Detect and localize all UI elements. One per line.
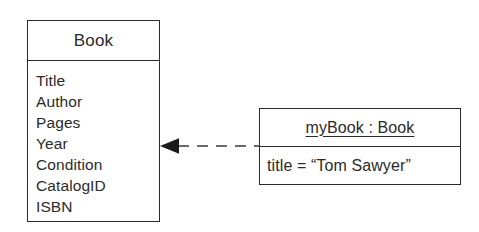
object-name-label: myBook : Book [306,120,415,136]
class-attribute-item: Pages [36,112,159,133]
class-attribute-item: CatalogID [36,175,159,196]
connector-arrowhead-icon [160,138,179,153]
class-attribute-item: Author [36,91,159,112]
object-slots-compartment: title = “Tom Sawyer” [260,147,460,184]
diagram-canvas: Book Title Author Pages Year Condition C… [0,0,479,232]
class-box-book[interactable]: Book Title Author Pages Year Condition C… [27,20,160,222]
object-name-compartment: myBook : Book [260,109,460,147]
object-box-mybook[interactable]: myBook : Book title = “Tom Sawyer” [259,108,461,185]
class-name-compartment: Book [28,21,159,61]
class-attribute-item: Title [36,70,159,91]
class-name-label: Book [74,32,114,49]
class-attribute-item: Year [36,133,159,154]
class-attribute-item: ISBN [36,196,159,217]
object-slot-item: title = “Tom Sawyer” [267,158,411,174]
class-attribute-item: Condition [36,154,159,175]
class-attributes-compartment: Title Author Pages Year Condition Catalo… [28,61,159,221]
instantiation-connector [160,138,260,154]
